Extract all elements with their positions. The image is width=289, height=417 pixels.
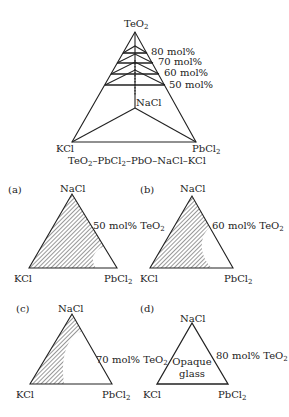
vertex-label-pbcl2: PbCl2 [192, 143, 220, 154]
subfigure-c-graphic [26, 310, 116, 388]
subfigure-a-composition: 50 mol% TeO2 [93, 220, 165, 231]
subfigure-c-top-label: NaCl [58, 303, 84, 314]
subfigure-d-tag: (d) [140, 303, 154, 314]
subfigure-d-right-label: PbCl2 [218, 389, 246, 400]
subfigure-c-composition: 70 mol% TeO2 [96, 354, 168, 365]
subfigure-b-tag: (b) [140, 184, 154, 195]
subfigure-d-top-label: NaCl [180, 313, 206, 324]
subfigure-c-left-label: KCl [16, 389, 34, 400]
subfigure-b-composition: 60 mol% TeO2 [212, 220, 284, 231]
vertex-label-kcl: KCl [56, 143, 74, 154]
subfigure-a-right-label: PbCl2 [104, 273, 132, 284]
subfigure-a-left-label: KCl [14, 273, 32, 284]
level-label-60: 60 mol% [164, 67, 208, 78]
subfigure-d-composition: 80 mol% TeO2 [216, 350, 288, 361]
subfigure-b-top-label: NaCl [180, 183, 206, 194]
subfigure-a-tag: (a) [8, 184, 22, 195]
level-label-70: 70 mol% [158, 56, 202, 67]
apex-label-teo2: TeO2 [124, 18, 148, 29]
subfigure-d-region-label-2: glass [172, 368, 212, 379]
main-caption: TeO2–PbCl2–PbO–NaCl–KCl [68, 155, 206, 166]
subfigure-b-right-label: PbCl2 [224, 273, 252, 284]
interior-label-nacl: NaCl [136, 97, 162, 108]
subfigure-a-top-label: NaCl [60, 183, 86, 194]
subfigure-d-region-label-1: Opaque [172, 356, 212, 367]
subfigure-b-graphic [145, 190, 237, 272]
subfigure-b-left-label: KCl [140, 273, 158, 284]
level-label-50: 50 mol% [169, 79, 213, 90]
subfigure-c-tag: (c) [16, 303, 29, 314]
subfigure-d-left-label: KCl [143, 389, 161, 400]
subfigure-c-right-label: PbCl2 [102, 389, 130, 400]
